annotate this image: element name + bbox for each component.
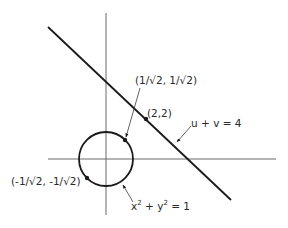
- diagram-canvas: (1/√2, 1/√2) (2,2) (-1/√2, -1/√2) u + v …: [0, 0, 288, 228]
- label-point-neg-1-over-root2: (-1/√2, -1/√2): [11, 175, 81, 187]
- circle-eq-plus: +: [142, 200, 157, 212]
- point-neg-1-over-root2: [85, 176, 89, 180]
- label-line-equation: u + v = 4: [191, 117, 242, 129]
- circle-eq-rhs: = 1: [168, 200, 190, 212]
- point-1-over-root2: [123, 138, 127, 142]
- leader-arrow-line: [177, 126, 191, 142]
- label-circle-equation: x2 + y2 = 1: [131, 199, 190, 212]
- label-point-1-over-root2: (1/√2, 1/√2): [135, 74, 197, 86]
- label-point-2-2: (2,2): [147, 107, 172, 119]
